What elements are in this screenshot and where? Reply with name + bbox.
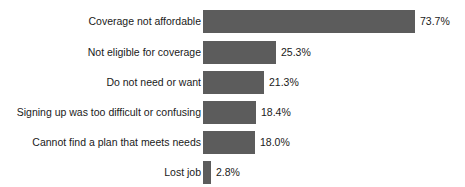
bar-value-label: 18.4% [261,101,291,124]
bar-value-label: 73.7% [420,10,450,33]
chart-row: Lost job 2.8% [0,161,465,184]
bar-group: 73.7% [203,10,450,33]
bar-group: 25.3% [203,41,311,64]
bar-value-label: 25.3% [281,41,311,64]
category-label: Signing up was too difficult or confusin… [0,101,201,124]
bar [203,71,264,94]
bar [203,41,276,64]
category-label: Not eligible for coverage [0,41,201,64]
bar-group: 18.0% [203,131,290,154]
bar [203,161,211,184]
bar-group: 18.4% [203,101,291,124]
category-label: Lost job [0,161,201,184]
horizontal-bar-chart: Coverage not affordable 73.7% Not eligib… [0,0,465,187]
bar [203,10,415,33]
chart-row: Coverage not affordable 73.7% [0,10,465,33]
bar [203,131,255,154]
category-label: Coverage not affordable [0,10,201,33]
chart-row: Cannot find a plan that meets needs 18.0… [0,131,465,154]
category-label: Cannot find a plan that meets needs [0,131,201,154]
bar-group: 21.3% [203,71,299,94]
bar-value-label: 18.0% [260,131,290,154]
bar-value-label: 21.3% [269,71,299,94]
bar [203,101,256,124]
category-label: Do not need or want [0,71,201,94]
chart-row: Signing up was too difficult or confusin… [0,101,465,124]
chart-row: Do not need or want 21.3% [0,71,465,94]
bar-value-label: 2.8% [216,161,240,184]
bar-group: 2.8% [203,161,240,184]
chart-row: Not eligible for coverage 25.3% [0,41,465,64]
